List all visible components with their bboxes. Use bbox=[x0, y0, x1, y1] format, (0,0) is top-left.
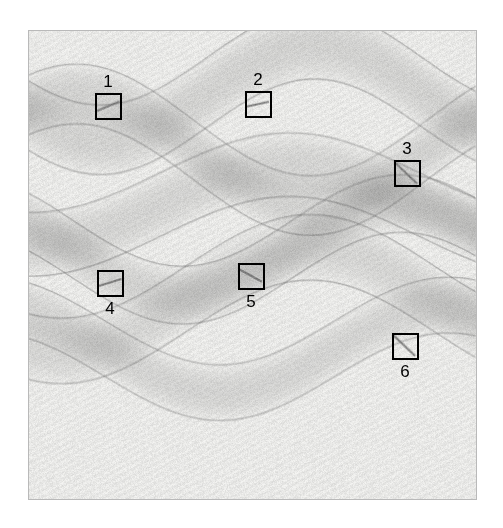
annotation-label-4: 4 bbox=[97, 300, 123, 317]
annotation-box-1[interactable] bbox=[95, 93, 122, 120]
annotation-label-5: 5 bbox=[238, 293, 264, 310]
annotation-label-1: 1 bbox=[95, 73, 121, 90]
annotation-label-3: 3 bbox=[394, 140, 420, 157]
annotation-box-5[interactable] bbox=[238, 263, 265, 290]
annotation-box-6[interactable] bbox=[392, 333, 419, 360]
annotation-label-6: 6 bbox=[392, 363, 418, 380]
figure-root: 123456 bbox=[0, 0, 503, 528]
annotation-box-4[interactable] bbox=[97, 270, 124, 297]
annotation-box-2[interactable] bbox=[245, 91, 272, 118]
annotation-label-2: 2 bbox=[245, 71, 271, 88]
annotation-box-3[interactable] bbox=[394, 160, 421, 187]
